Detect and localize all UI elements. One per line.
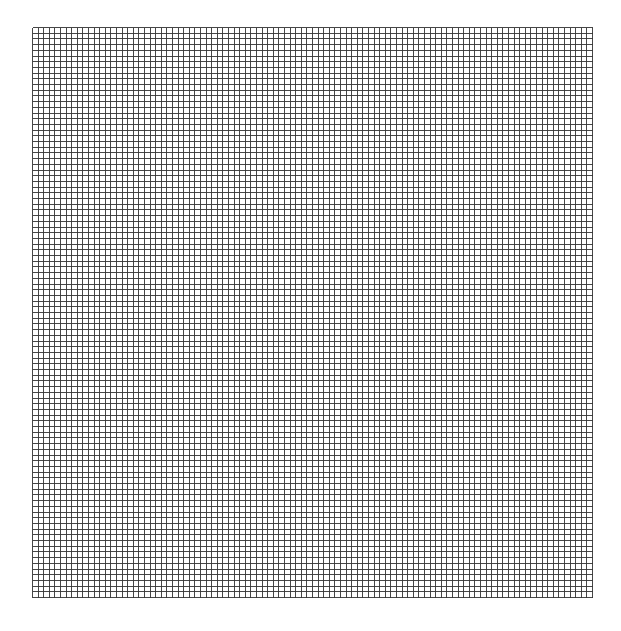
grid-canvas [32, 27, 593, 598]
grid-lines [32, 27, 593, 598]
